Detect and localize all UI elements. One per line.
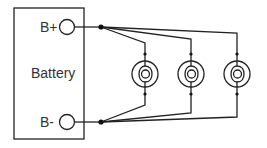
lamp-icon	[224, 54, 250, 94]
battery-label: Battery	[31, 65, 75, 81]
lamp-2-bottom-node	[189, 92, 192, 95]
lamp-2-top-node	[189, 52, 192, 55]
wire-bottom-lamp-2	[101, 94, 191, 122]
wire-top-lamp-2	[101, 27, 191, 54]
lamp-3-top-node	[235, 52, 238, 55]
lamp-1-bottom-node	[143, 92, 146, 95]
lamp-icon	[132, 54, 158, 94]
positive-junction-dot	[98, 24, 103, 29]
lamp-1-top-node	[143, 52, 146, 55]
circuit-diagram: B+ Battery B-	[0, 0, 267, 148]
negative-terminal-icon	[60, 115, 75, 130]
wire-top-lamp-1	[101, 27, 145, 54]
lamp-3-bottom-node	[235, 92, 238, 95]
negative-terminal-label: B-	[40, 114, 54, 130]
negative-junction-dot	[98, 119, 103, 124]
wire-top-lamp-3	[101, 27, 237, 54]
lamp-icon	[178, 54, 204, 94]
wire-bottom-lamp-3	[101, 94, 237, 122]
positive-terminal-label: B+	[40, 19, 58, 35]
positive-terminal-icon	[60, 20, 75, 35]
